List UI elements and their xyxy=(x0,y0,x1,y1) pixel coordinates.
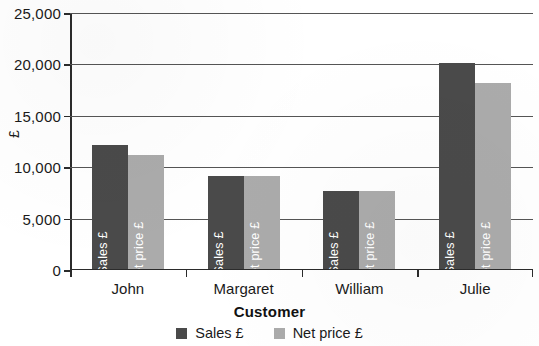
y-tick-label: 10,000 xyxy=(14,159,61,176)
bar-inner-label: Sales £ xyxy=(327,231,341,269)
x-axis-title: Customer xyxy=(0,303,539,320)
y-tick-label: 0 xyxy=(52,262,61,279)
x-tick-mark xyxy=(532,270,534,277)
x-tick-mark xyxy=(70,270,72,277)
bar-inner-label: Sales £ xyxy=(443,231,457,269)
y-tick-mark xyxy=(64,167,70,169)
y-tick-mark xyxy=(64,64,70,66)
x-tick-label: Margaret xyxy=(214,280,274,297)
y-tick-label: 20,000 xyxy=(14,56,61,73)
x-tick-label: William xyxy=(335,280,383,297)
y-tick-mark xyxy=(64,13,70,15)
x-tick-mark xyxy=(417,270,419,277)
bar-inner-label: Net price £ xyxy=(363,221,377,268)
bar[interactable]: Sales £ xyxy=(439,63,475,269)
bar-group: Sales £Net price £ xyxy=(323,14,395,269)
y-tick-label: 5,000 xyxy=(22,210,61,227)
legend-label: Net price £ xyxy=(293,325,363,341)
x-axis-tick-labels: JohnMargaretWilliamJulie xyxy=(70,280,533,300)
bar-group: Sales £Net price £ xyxy=(439,14,511,269)
legend-item[interactable]: Sales £ xyxy=(176,325,243,341)
y-tick-mark xyxy=(64,219,70,221)
bar[interactable]: Net price £ xyxy=(128,155,164,268)
bar[interactable]: Sales £ xyxy=(208,176,244,269)
y-tick-label: 25,000 xyxy=(14,5,61,22)
x-tick-label: Julie xyxy=(460,280,491,297)
bar-inner-label: Sales £ xyxy=(212,231,226,269)
y-tick-mark xyxy=(64,116,70,118)
legend-swatch-icon xyxy=(176,328,187,339)
legend-swatch-icon xyxy=(274,328,285,339)
bar-inner-label: Sales £ xyxy=(96,231,110,269)
bar-group: Sales £Net price £ xyxy=(92,14,164,269)
bar-group: Sales £Net price £ xyxy=(208,14,280,269)
bar-chart: £ 05,00010,00015,00020,00025,000 Sales £… xyxy=(0,0,539,346)
x-tick-label: John xyxy=(112,280,145,297)
bar-inner-label: Net price £ xyxy=(248,221,262,268)
y-tick-label: 15,000 xyxy=(14,107,61,124)
bar-inner-label: Net price £ xyxy=(132,221,146,268)
x-tick-mark xyxy=(302,270,304,277)
bar[interactable]: Sales £ xyxy=(92,145,128,268)
y-axis-title: £ xyxy=(6,130,22,138)
legend-label: Sales £ xyxy=(195,325,243,341)
bar-inner-label: Net price £ xyxy=(479,221,493,268)
bar[interactable]: Net price £ xyxy=(475,83,511,268)
y-axis-line xyxy=(70,13,72,270)
x-tick-mark xyxy=(186,270,188,277)
plot-area: 05,00010,00015,00020,00025,000 Sales £Ne… xyxy=(70,13,533,270)
bar[interactable]: Net price £ xyxy=(244,176,280,269)
chart-legend: Sales £Net price £ xyxy=(0,325,539,341)
bar[interactable]: Net price £ xyxy=(359,191,395,268)
bar[interactable]: Sales £ xyxy=(323,191,359,268)
legend-item[interactable]: Net price £ xyxy=(274,325,363,341)
